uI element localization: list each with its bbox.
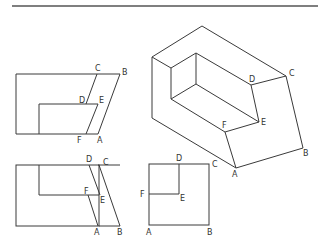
label-f: F — [77, 136, 82, 145]
label-c: C — [212, 160, 218, 169]
label-e: E — [99, 96, 104, 105]
label-a: A — [94, 228, 100, 237]
projection-diagram: C B D E F A D C F E A B D C F E A B — [0, 0, 329, 250]
edge-d-e — [89, 165, 100, 195]
top-view: D C F E A B — [16, 155, 123, 237]
label-e: E — [261, 118, 266, 127]
label-d: D — [86, 155, 92, 164]
label-f: F — [84, 187, 89, 196]
label-f: F — [140, 190, 145, 199]
iso-edge — [152, 57, 171, 68]
label-c: C — [103, 158, 109, 167]
side-inner — [149, 164, 179, 194]
side-view: D C F E A B — [140, 154, 218, 237]
edge-d-c — [251, 76, 286, 85]
label-a: A — [232, 170, 238, 179]
label-c: C — [95, 64, 101, 73]
edge-d-e — [251, 85, 259, 122]
label-b: B — [207, 228, 213, 237]
edge-e-f — [86, 104, 98, 134]
iso-floor-front — [171, 99, 225, 132]
label-d: D — [176, 154, 182, 163]
label-d: D — [249, 75, 255, 84]
label-e: E — [100, 196, 105, 205]
front-inner-rect — [39, 104, 98, 134]
label-a: A — [146, 228, 152, 237]
label-e: E — [180, 194, 185, 203]
label-b: B — [303, 149, 309, 158]
front-view: C B D E F A — [16, 64, 128, 145]
label-d: D — [79, 96, 85, 105]
edge-f-a — [88, 195, 98, 226]
label-c: C — [289, 69, 295, 78]
edge-e-f — [225, 122, 259, 132]
iso-inner-top — [171, 53, 251, 85]
label-f: F — [222, 121, 227, 130]
edge-c-d — [86, 74, 97, 104]
label-b: B — [122, 68, 128, 77]
label-a: A — [97, 136, 103, 145]
top-inner — [39, 165, 99, 195]
iso-inner-floor — [171, 68, 259, 122]
label-b: B — [117, 228, 123, 237]
